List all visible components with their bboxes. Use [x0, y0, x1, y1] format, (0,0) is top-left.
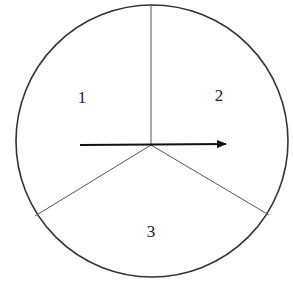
three-sector-circle-diagram: 1 2 3: [0, 0, 293, 283]
direction-arrow-icon: [80, 144, 226, 145]
divider-line-lower-right: [151, 145, 269, 215]
sector-label-1: 1: [78, 88, 87, 107]
sector-label-3: 3: [147, 222, 156, 241]
divider-line-lower-left: [35, 145, 151, 216]
sector-label-2: 2: [215, 86, 224, 105]
